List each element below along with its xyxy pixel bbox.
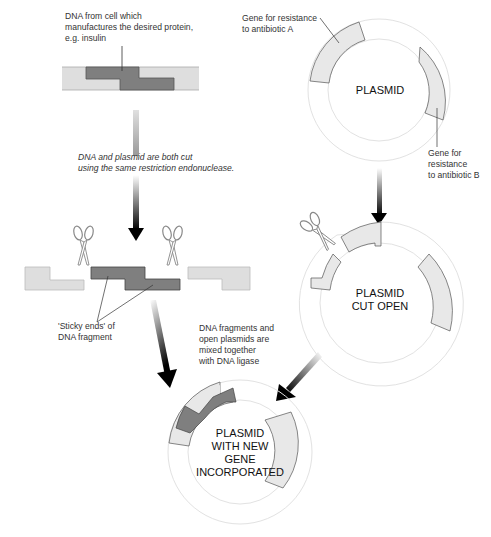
plasmid-original-title: PLASMID bbox=[339, 84, 421, 97]
arrow-down-dna-cut bbox=[128, 110, 144, 241]
label-gene-b: Gene for resistance to antibiotic B bbox=[428, 148, 480, 181]
cut-dna-left-piece bbox=[25, 267, 84, 290]
genetic-engineering-diagram: DNA from cell which manufactures the des… bbox=[0, 0, 491, 537]
scissors-icon-left bbox=[72, 225, 94, 265]
plasmid-recombinant-title: PLASMID WITH NEW GENE INCORPORATED bbox=[178, 427, 302, 479]
dna-fragment-sticky-ends bbox=[91, 267, 180, 290]
cut-dna-right-piece bbox=[188, 267, 250, 290]
plasmid-cut-open-title: PLASMID CUT OPEN bbox=[339, 287, 421, 313]
scissors-icon-plasmid bbox=[297, 209, 340, 254]
label-gene-a: Gene for resistance to antibiotic A bbox=[242, 13, 317, 35]
arrow-down-plasmid-cut bbox=[371, 168, 387, 225]
label-ligase-step: DNA fragments and open plasmids are mixe… bbox=[199, 323, 274, 367]
arrow-to-recombinant-left bbox=[150, 300, 177, 388]
source-dna-strand bbox=[62, 67, 199, 90]
label-cut-step: DNA and plasmid are both cut using the s… bbox=[78, 152, 234, 174]
scissors-icon-middle bbox=[161, 225, 183, 265]
label-dna-source: DNA from cell which manufactures the des… bbox=[65, 11, 193, 44]
label-sticky-ends: 'Sticky ends' of DNA fragment bbox=[58, 321, 115, 343]
